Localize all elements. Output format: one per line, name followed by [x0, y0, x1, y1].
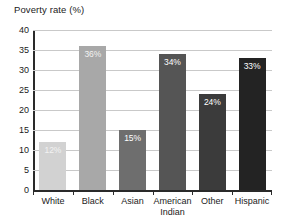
poverty-rate-bar-chart: Poverty rate (%) 4035302520151050 12%36%… [0, 0, 285, 224]
y-axis-tick-label: 5 [24, 165, 29, 175]
bar[interactable]: 24% [199, 94, 226, 190]
x-axis-tick [192, 190, 193, 195]
x-axis-tick [271, 190, 272, 195]
y-axis-tick-labels: 4035302520151050 [0, 30, 29, 190]
x-axis-tick [113, 190, 114, 195]
bars: 12%36%15%34%24%33% [33, 30, 272, 190]
bar[interactable]: 34% [159, 54, 186, 190]
x-axis-tick [73, 190, 74, 195]
y-axis-tick-label: 0 [24, 185, 29, 195]
bar-group[interactable]: 33% [239, 58, 266, 190]
bar-value-label: 34% [159, 57, 186, 67]
bar-group[interactable]: 15% [119, 130, 146, 190]
x-axis-category-labels: WhiteBlackAsianAmerican IndianOtherHispa… [33, 196, 272, 224]
bar-group[interactable]: 36% [79, 46, 106, 190]
bar-group[interactable]: 34% [159, 54, 186, 190]
x-axis-label-asian: Asian [113, 196, 153, 207]
bar[interactable]: 15% [119, 130, 146, 190]
x-axis-label-black: Black [73, 196, 113, 207]
bar-value-label: 12% [39, 145, 66, 155]
bar-value-label: 36% [79, 49, 106, 59]
y-axis-tick-label: 15 [19, 125, 29, 135]
y-axis-tick-label: 35 [19, 45, 29, 55]
chart-title: Poverty rate (%) [14, 4, 84, 15]
plot-area: 12%36%15%34%24%33% [33, 30, 272, 190]
y-axis-tick-label: 25 [19, 85, 29, 95]
y-axis-tick-label: 20 [19, 105, 29, 115]
bar-group[interactable]: 12% [39, 142, 66, 190]
x-axis-label-american-indian: American Indian [153, 196, 193, 218]
x-axis-tick [232, 190, 233, 195]
y-axis-tick-label: 30 [19, 65, 29, 75]
x-axis-tick [33, 190, 34, 195]
bar-group[interactable]: 24% [199, 94, 226, 190]
x-axis-label-other: Other [192, 196, 232, 207]
bar[interactable]: 12% [39, 142, 66, 190]
x-axis-tick-marks [33, 190, 272, 195]
bar-value-label: 24% [199, 97, 226, 107]
x-axis-tick [153, 190, 154, 195]
bar[interactable]: 36% [79, 46, 106, 190]
bar[interactable]: 33% [239, 58, 266, 190]
y-axis-tick-label: 40 [19, 25, 29, 35]
y-axis-tick-label: 10 [19, 145, 29, 155]
x-axis-label-white: White [33, 196, 73, 207]
x-axis-label-hispanic: Hispanic [232, 196, 272, 207]
bar-value-label: 33% [239, 61, 266, 71]
bar-value-label: 15% [119, 133, 146, 143]
